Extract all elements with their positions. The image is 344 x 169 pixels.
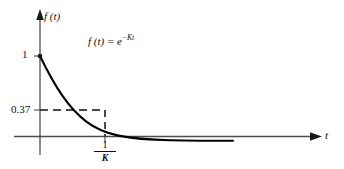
equation-base: f (t) = e [88, 35, 122, 47]
curve-start-point-marker [38, 54, 43, 59]
y-axis-label: f (t) [44, 11, 60, 22]
y-axis-arrowhead [36, 9, 44, 20]
y-tick-label-one: 1 [22, 49, 28, 60]
x-axis-arrowhead [310, 132, 322, 140]
exponential-decay-curve [40, 56, 233, 141]
fraction-denominator: K [94, 152, 116, 164]
y-tick-label-point37: 0.37 [11, 104, 30, 115]
fraction-numerator: 1 [94, 140, 116, 152]
equation-annotation: f (t) = e−Kt [88, 34, 134, 47]
x-tick-label-inverse-k: 1 K [94, 140, 116, 163]
x-axis-label: t [325, 130, 328, 141]
equation-exponent: −Kt [122, 33, 134, 42]
exponential-decay-figure: f (t) t 1 0.37 f (t) = e−Kt 1 K [0, 0, 344, 169]
plot-canvas [0, 0, 344, 169]
curve-helper-hidden [40, 56, 108, 137]
